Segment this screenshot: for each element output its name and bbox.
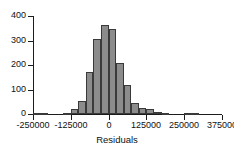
y-axis-tick	[28, 90, 33, 91]
histogram-bar	[192, 113, 200, 115]
histogram-bar	[146, 109, 154, 114]
y-axis-tick-label: 100	[0, 85, 26, 94]
histogram-bar	[184, 113, 192, 115]
y-axis-tick-label: 300	[0, 36, 26, 45]
histogram-bar	[139, 108, 147, 114]
histogram-bar	[116, 63, 124, 114]
y-axis-tick	[28, 65, 33, 66]
histogram-bar	[33, 113, 41, 115]
y-axis-tick-label: 0	[0, 109, 26, 118]
x-axis-tick-label: 375000	[198, 120, 234, 130]
histogram-chart: 0100200300400 -250000-125000012500025000…	[0, 0, 234, 153]
histogram-bar	[101, 25, 109, 114]
histogram-bar	[124, 85, 132, 114]
y-axis-tick-label: 200	[0, 60, 26, 69]
histogram-bars	[0, 0, 234, 153]
histogram-bar	[41, 113, 49, 115]
histogram-bar	[109, 29, 117, 114]
y-axis-tick	[28, 41, 33, 42]
histogram-bar	[78, 101, 86, 114]
histogram-bar	[93, 39, 101, 114]
histogram-bar	[86, 72, 94, 114]
histogram-bar	[162, 113, 170, 115]
histogram-bar	[63, 113, 71, 115]
x-axis-title: Residuals	[0, 134, 234, 145]
histogram-bar	[154, 112, 162, 114]
histogram-bar	[71, 109, 79, 114]
histogram-bar	[131, 103, 139, 114]
y-axis-tick-label: 400	[0, 11, 26, 20]
y-axis-tick	[28, 16, 33, 17]
